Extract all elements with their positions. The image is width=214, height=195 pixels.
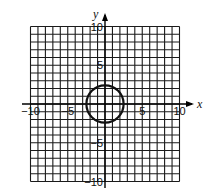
axes: [22, 13, 194, 188]
y-tick-label: −10: [84, 176, 103, 188]
y-tick-label: −5: [90, 137, 103, 149]
y-axis-label: y: [92, 7, 99, 21]
y-tick-label: 10: [91, 21, 103, 33]
x-axis-arrow-icon: [186, 101, 194, 107]
x-tick-label: 10: [173, 105, 185, 117]
x-tick-label: −5: [61, 105, 74, 117]
y-tick-label: 5: [97, 59, 103, 71]
x-tick-label: −10: [21, 105, 40, 117]
coordinate-plane: −10−5510105−5−10 x y: [0, 0, 214, 195]
x-tick-label: 5: [139, 105, 145, 117]
x-axis-label: x: [196, 97, 203, 111]
